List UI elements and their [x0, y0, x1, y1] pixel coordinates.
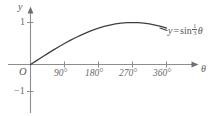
x-tick-label-90: 90° — [54, 69, 67, 79]
curve-equation-label: y = sin 1 3 θ — [168, 23, 203, 37]
y-tick-label-minus-1: −1 — [14, 86, 25, 96]
trig-graph-figure: y θ O 1 −1 90° 180° 270° 360° y = sin 1 … — [0, 0, 217, 116]
y-tick-label-1: 1 — [20, 17, 25, 27]
y-axis-arrowhead — [28, 7, 34, 14]
origin-label: O — [19, 67, 27, 78]
sine-curve — [31, 23, 167, 65]
x-axis-arrowhead — [192, 62, 199, 68]
equation-equals: = — [173, 25, 179, 36]
x-tick-label-180: 180° — [85, 69, 103, 79]
x-tick-label-360: 360° — [153, 69, 171, 79]
x-axis-label: θ — [201, 64, 206, 74]
x-tick-label-270: 270° — [119, 69, 137, 79]
equation-lhs: y — [168, 25, 172, 36]
equation-fraction: 1 3 — [192, 23, 197, 37]
equation-function: sin — [180, 25, 192, 36]
plot-area — [0, 0, 217, 116]
fraction-denominator: 3 — [193, 30, 196, 37]
equation-variable: θ — [198, 25, 203, 36]
y-axis-label: y — [18, 2, 22, 12]
